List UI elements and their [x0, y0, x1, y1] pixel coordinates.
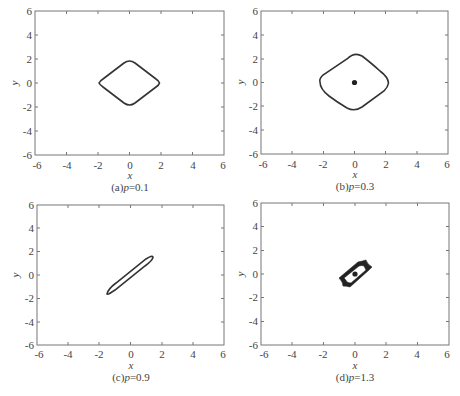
axes-box [35, 11, 224, 155]
tick-marks [37, 205, 224, 345]
fixed-point-marker [352, 80, 357, 85]
svg-text:4: 4 [253, 29, 259, 41]
panel-c: 6 4 2 0 -2 -4 -6 -6 -4 -2 0 2 4 6 x y (c… [0, 198, 230, 396]
caption-c: (c)p=0.9 [112, 371, 150, 384]
caption-a: (a)p=0.1 [111, 181, 149, 194]
svg-text:6: 6 [444, 348, 450, 360]
panel-a: 6 4 2 0 -2 -4 -6 -6 -4 -2 0 2 4 6 x y (a… [0, 0, 230, 198]
svg-text:-4: -4 [249, 124, 259, 136]
svg-text:-2: -2 [249, 291, 258, 303]
chart-d: 6 4 2 0 -2 -4 -6 -6 -4 -2 0 2 4 6 x y (d… [230, 198, 460, 396]
svg-text:6: 6 [220, 348, 226, 360]
svg-text:4: 4 [190, 348, 196, 360]
x-axis-label: x [128, 359, 134, 371]
x-axis-label: x [352, 359, 358, 371]
y-tick-labels: 6 4 2 0 -2 -4 -6 [249, 5, 259, 160]
svg-text:-4: -4 [63, 348, 73, 360]
svg-text:0: 0 [253, 268, 259, 280]
svg-text:-2: -2 [94, 348, 103, 360]
svg-text:6: 6 [253, 5, 259, 17]
svg-text:-6: -6 [23, 149, 33, 161]
svg-text:2: 2 [159, 348, 165, 360]
svg-text:-4: -4 [23, 125, 33, 137]
svg-text:6: 6 [253, 198, 259, 209]
svg-text:6: 6 [27, 5, 33, 17]
svg-text:-6: -6 [249, 339, 259, 351]
y-axis-label: y [8, 80, 20, 86]
caption-b: (b)p=0.3 [336, 180, 375, 193]
svg-text:2: 2 [158, 159, 164, 171]
panel-b: 6 4 2 0 -2 -4 -6 -6 -4 -2 0 2 4 6 x y (b… [230, 0, 460, 198]
svg-text:-6: -6 [25, 339, 35, 351]
svg-text:-6: -6 [259, 348, 269, 360]
y-tick-labels: 6 4 2 0 -2 -4 -6 [25, 199, 35, 351]
svg-text:6: 6 [444, 158, 450, 170]
svg-text:0: 0 [29, 269, 35, 281]
svg-text:-2: -2 [318, 348, 327, 360]
svg-text:-6: -6 [258, 158, 268, 170]
svg-text:-2: -2 [23, 101, 32, 113]
svg-text:-4: -4 [287, 348, 297, 360]
svg-text:2: 2 [253, 53, 259, 65]
chart-c: 6 4 2 0 -2 -4 -6 -6 -4 -2 0 2 4 6 x y (c… [0, 198, 230, 396]
panel-d: 6 4 2 0 -2 -4 -6 -6 -4 -2 0 2 4 6 x y (d… [230, 198, 460, 396]
svg-text:-4: -4 [249, 315, 259, 327]
svg-text:-4: -4 [287, 158, 297, 170]
svg-text:4: 4 [29, 222, 35, 234]
svg-text:2: 2 [253, 244, 259, 256]
svg-text:2: 2 [383, 348, 389, 360]
svg-text:6: 6 [220, 159, 226, 171]
y-tick-labels: 6 4 2 0 -2 -4 -6 [23, 5, 33, 161]
chart-b: 6 4 2 0 -2 -4 -6 -6 -4 -2 0 2 4 6 x y (b… [230, 0, 460, 198]
svg-text:-2: -2 [25, 292, 34, 304]
svg-text:4: 4 [190, 159, 196, 171]
fixed-point-marker [352, 271, 357, 276]
x-axis-label: x [352, 168, 358, 180]
orbit-curve [107, 256, 153, 294]
orbit-curve [99, 61, 160, 105]
svg-text:-4: -4 [62, 159, 72, 171]
svg-text:2: 2 [29, 245, 35, 257]
caption-d: (d)p=1.3 [336, 371, 375, 384]
x-axis-label: x [127, 169, 133, 181]
y-axis-label: y [234, 79, 246, 85]
svg-text:4: 4 [414, 348, 420, 360]
y-axis-label: y [9, 272, 21, 278]
svg-text:-2: -2 [249, 100, 258, 112]
svg-text:-6: -6 [34, 348, 44, 360]
axes-box [37, 205, 224, 345]
svg-text:-2: -2 [318, 158, 327, 170]
y-tick-labels: 6 4 2 0 -2 -4 -6 [249, 198, 259, 351]
svg-text:-6: -6 [249, 148, 259, 160]
svg-text:4: 4 [253, 220, 259, 232]
svg-text:4: 4 [27, 29, 33, 41]
svg-text:0: 0 [27, 77, 33, 89]
svg-text:-4: -4 [25, 316, 35, 328]
svg-text:4: 4 [414, 158, 420, 170]
chart-a: 6 4 2 0 -2 -4 -6 -6 -4 -2 0 2 4 6 x y (a… [0, 0, 230, 198]
svg-text:-6: -6 [32, 159, 42, 171]
svg-text:2: 2 [27, 53, 33, 65]
svg-text:2: 2 [383, 158, 389, 170]
y-axis-label: y [234, 271, 246, 277]
svg-text:6: 6 [29, 199, 35, 211]
tick-marks [35, 11, 224, 155]
svg-text:0: 0 [253, 76, 259, 88]
svg-text:-2: -2 [93, 159, 102, 171]
